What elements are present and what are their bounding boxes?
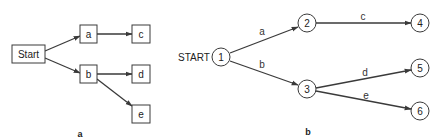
node-start-label: Start [18, 49, 39, 60]
edge-label-e: e [363, 90, 369, 101]
diagram-canvas: Start a b c d e a START [0, 0, 443, 140]
node-3-label: 3 [304, 84, 310, 95]
node-d: d [132, 65, 150, 83]
start-label: START [178, 52, 210, 63]
edge-label-c: c [361, 11, 366, 22]
node-6: 6 [411, 102, 429, 120]
node-5: 5 [411, 59, 429, 77]
node-5-label: 5 [417, 63, 423, 74]
edge-label-b: b [259, 59, 265, 70]
node-d-label: d [138, 69, 144, 80]
edge-start-a [45, 36, 80, 51]
node-c-label: c [139, 29, 144, 40]
node-b: b [80, 65, 97, 83]
edge-label-d: d [362, 67, 368, 78]
caption-a: a [77, 129, 83, 139]
node-2: 2 [298, 14, 316, 32]
edge-b-e [97, 79, 132, 106]
node-b-label: b [86, 69, 92, 80]
node-4-label: 4 [417, 18, 423, 29]
caption-b: b [305, 127, 311, 137]
node-start: Start [12, 45, 45, 63]
node-1-label: 1 [218, 52, 224, 63]
node-6-label: 6 [417, 106, 423, 117]
node-a: a [80, 25, 97, 43]
diagram-b: START a b c d e 1 2 3 4 5 [178, 11, 429, 137]
diagram-a: Start a b c d e a [12, 25, 150, 139]
node-3: 3 [298, 80, 316, 98]
node-e: e [132, 105, 150, 123]
node-1: 1 [212, 48, 230, 66]
edge-start-b [45, 58, 80, 73]
node-a-label: a [86, 29, 92, 40]
node-c: c [132, 25, 150, 43]
edge-label-a: a [259, 26, 265, 37]
node-e-label: e [138, 109, 144, 120]
node-4: 4 [411, 14, 429, 32]
node-2-label: 2 [304, 18, 310, 29]
